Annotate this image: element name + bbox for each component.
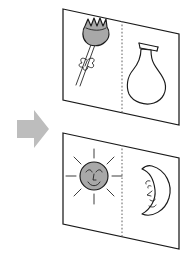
right-arrow-shape (17, 110, 49, 148)
card-bottom (63, 133, 179, 249)
diagram-canvas (0, 0, 194, 264)
card-top (63, 9, 179, 125)
figure-root: Picture-card matching pairs A gray right… (0, 0, 194, 264)
flower-head (83, 18, 109, 46)
right-arrow (17, 110, 49, 148)
